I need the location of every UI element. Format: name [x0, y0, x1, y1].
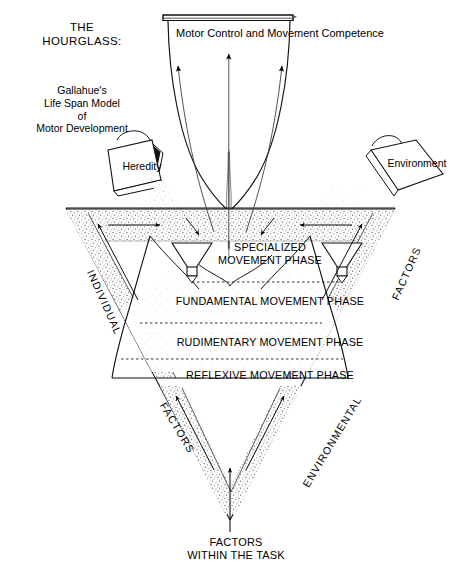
- hourglass-diagram: THE HOURGLASS: Gallahue's Life Span Mode…: [0, 0, 461, 578]
- page-title: THE HOURGLASS:: [18, 20, 146, 48]
- hourglass-rim: [163, 15, 297, 21]
- environment-sand-stream: [302, 186, 372, 209]
- environment-label: Environment: [379, 157, 455, 170]
- outcome-label: Motor Control and Movement Competence: [155, 27, 405, 40]
- figure-subtitle: Gallahue's Life Span Model of Motor Deve…: [12, 84, 152, 135]
- phase-label-rudimentary: RUDIMENTARY MOVEMENT PHASE: [150, 336, 390, 349]
- phase-body: [92, 252, 368, 372]
- phase-label-reflexive: REFLEXIVE MOVEMENT PHASE: [150, 369, 390, 382]
- phase-label-fundamental: FUNDAMENTAL MOVEMENT PHASE: [150, 295, 390, 308]
- task-factors-label: FACTORS WITHIN THE TASK: [171, 536, 301, 563]
- phase-label-specialized: SPECIALIZED MOVEMENT PHASE: [200, 241, 340, 267]
- heredity-label: Heredity: [112, 160, 172, 173]
